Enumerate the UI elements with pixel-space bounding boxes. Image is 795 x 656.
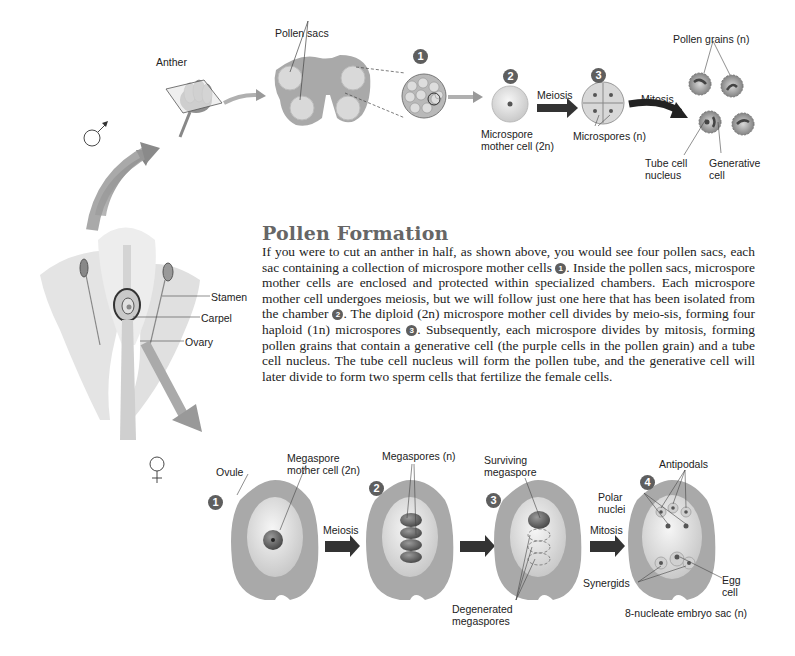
step-badge-female-2: 2 [369,481,384,496]
synergids-label: Synergids [583,577,630,589]
ovule-stage-3 [494,478,581,600]
ovule-label: Ovule [216,466,243,478]
surviving-megaspore-label-2: megaspore [484,466,537,478]
step-badge-female-3: 3 [486,493,501,508]
anther-label: Anther [156,56,187,68]
egg-cell-label-2: cell [722,586,738,598]
step-badge-female-4: 4 [640,475,655,490]
inline-step-badge-3: 3 [406,325,417,336]
inline-step-badge-1: 1 [555,263,566,274]
pollen-sacs-label: Pollen sacs [275,27,329,39]
female-symbol-icon [150,457,164,483]
meiosis-label-male: Meiosis [537,89,573,101]
mitosis-label-male: Mitosis [641,93,674,105]
generative-cell-label-2: cell [709,169,725,181]
stamen-label: Stamen [211,291,247,303]
step-badge-female-1: 1 [208,495,223,510]
male-symbol-icon [84,121,108,146]
tube-cell-label-2: nucleus [645,169,681,181]
ovule-stage-1 [231,465,318,600]
microspore-mother-cell-label-2: mother cell (2n) [481,140,554,152]
tube-cell-label-1: Tube cell [645,157,687,169]
body-paragraph: If you were to cut an anther in half, as… [262,244,755,384]
surviving-megaspore-label-1: Surviving [484,454,527,466]
polar-nuclei-label-1: Polar [598,491,623,503]
microspore-tetrad [582,82,624,126]
megaspore-mother-cell-label-2: mother cell (2n) [287,464,360,476]
step-badge-male-3: 3 [591,68,606,83]
ovule-stage-4 [628,470,722,600]
inline-step-badge-2: 2 [332,309,343,320]
step-badge-male-2: 2 [503,69,518,84]
carpel-label: Carpel [201,312,232,324]
section-heading: Pollen Formation [262,222,449,244]
microspores-label: Microspores (n) [573,130,646,142]
pollen-grains-label: Pollen grains (n) [673,33,749,45]
step-badge-male-1: 1 [413,49,428,64]
meiosis-label-female: Meiosis [323,524,359,536]
generative-cell-label-1: Generative [709,157,760,169]
microspore-mother-cell-label-1: Microspore [481,128,533,140]
megaspore-mother-cell-label-1: Megaspore [287,452,340,464]
pollen-grains [684,41,754,155]
mitosis-label-female: Mitosis [590,524,623,536]
antipodals-label: Antipodals [659,458,708,470]
egg-cell-label-1: Egg [722,574,741,586]
microspore-chamber [402,74,446,118]
embryo-sac-label: 8-nucleate embryo sac (n) [625,607,747,619]
megaspores-label: Megaspores (n) [382,450,456,462]
degenerated-megaspores-label-1: Degenerated [452,603,513,615]
polar-nuclei-label-2: nuclei [598,503,625,515]
degenerated-megaspores-label-2: megaspores [452,615,510,627]
anther-illustration [166,80,222,137]
ovary-label: Ovary [185,336,213,348]
